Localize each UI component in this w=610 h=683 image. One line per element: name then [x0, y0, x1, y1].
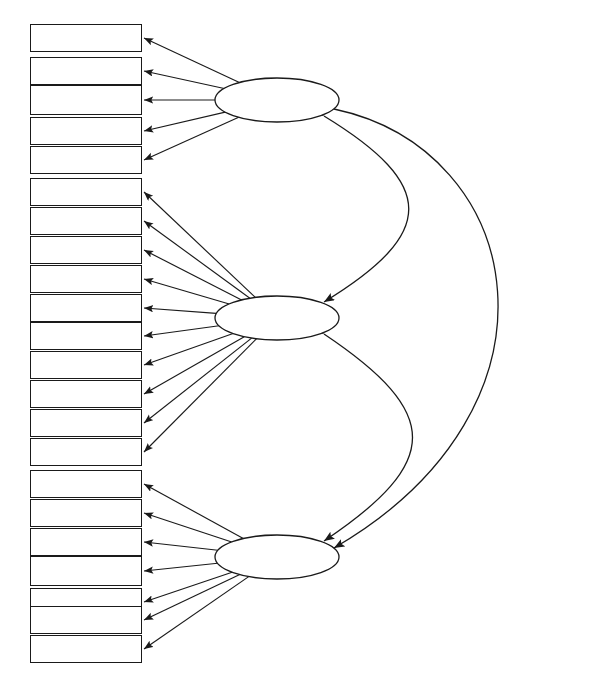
- indicator-box: [30, 24, 142, 52]
- factor-to-indicator-arrow: [144, 513, 232, 542]
- factor-to-indicator-arrow: [144, 308, 216, 313]
- factor-to-indicator-arrow: [144, 339, 256, 452]
- path-diagram-canvas: [0, 0, 610, 683]
- indicator-box: [30, 117, 142, 145]
- indicator-box: [30, 207, 142, 235]
- factor-to-indicator-arrow: [144, 334, 233, 366]
- indicator-box: [30, 351, 142, 379]
- indicator-box: [30, 85, 142, 115]
- factor-to-indicator-arrow: [144, 192, 255, 297]
- factor-to-indicator-arrow: [144, 221, 250, 298]
- correlation-arc-f2-f3: [324, 334, 413, 541]
- correlation-arc-f1-f3: [334, 109, 498, 548]
- indicator-box: [30, 635, 142, 663]
- factor-to-indicator-arrow: [144, 542, 218, 550]
- indicator-box: [30, 438, 142, 466]
- indicator-box: [30, 294, 142, 322]
- indicator-box: [30, 499, 142, 527]
- factor-to-indicator-arrow: [144, 338, 252, 423]
- factor-ellipse: [215, 78, 339, 122]
- indicator-box: [30, 322, 142, 350]
- indicator-box: [30, 528, 142, 556]
- factor-to-indicator-arrow: [144, 326, 219, 336]
- factor-to-indicator-arrow: [144, 250, 242, 300]
- factor-ellipse: [215, 296, 339, 340]
- indicator-box: [30, 57, 142, 85]
- indicator-box: [30, 556, 142, 586]
- indicator-box: [30, 380, 142, 408]
- indicator-box: [30, 606, 142, 634]
- indicator-box: [30, 236, 142, 264]
- factor-to-indicator-arrow: [144, 38, 239, 83]
- factor-ellipse: [215, 535, 339, 579]
- indicator-box: [30, 470, 142, 498]
- factor-to-indicator-arrow: [144, 117, 239, 160]
- indicator-box: [30, 265, 142, 293]
- factor-to-indicator-arrow: [144, 563, 218, 571]
- factor-to-indicator-arrow: [144, 71, 224, 89]
- factor-to-indicator-arrow: [144, 112, 225, 131]
- factor-to-indicator-arrow: [144, 484, 243, 539]
- correlation-arc-f1-f2: [324, 116, 409, 302]
- indicator-box: [30, 409, 142, 437]
- indicator-box: [30, 178, 142, 206]
- factor-to-indicator-arrow: [144, 279, 229, 304]
- indicator-box: [30, 146, 142, 174]
